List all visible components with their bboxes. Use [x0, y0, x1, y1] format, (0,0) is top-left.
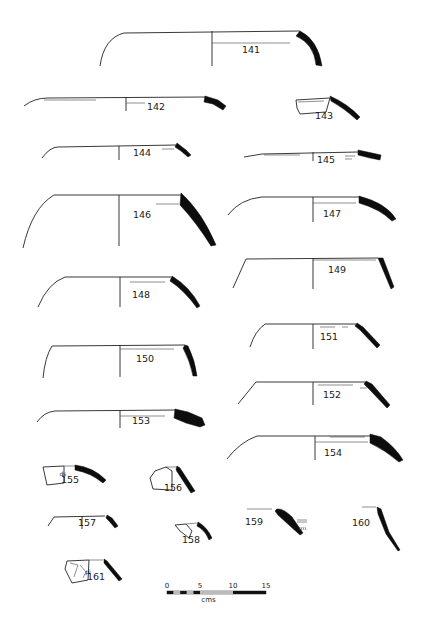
rim-section: [174, 409, 205, 427]
rim-section: [370, 434, 403, 462]
rim-section: [175, 143, 191, 157]
rim-profile-153: 153: [37, 409, 205, 428]
vessel-outline: [38, 277, 171, 307]
inner-line: [298, 101, 324, 102]
scale-segment: [180, 591, 187, 594]
fragment-155: 155ds: [43, 465, 106, 485]
scale-segment: [233, 591, 266, 594]
scale-segment: [187, 591, 194, 594]
vessel-outline: [227, 436, 370, 459]
catalogue-number: 146: [133, 209, 151, 220]
vessel-outline: [250, 324, 356, 347]
rim-section: [378, 258, 394, 289]
incised-decoration: [298, 519, 306, 530]
rim-section: [330, 96, 360, 120]
rim-profile-142: 142: [24, 96, 226, 112]
catalogue-number: 153: [132, 415, 150, 426]
fragment-159: 159: [245, 509, 306, 535]
scale-bar: 0 5 10 15 cms: [165, 582, 271, 604]
rim-section: [275, 509, 303, 535]
fragment-158: 158: [175, 522, 212, 545]
rim-section: [358, 150, 381, 160]
fragment-161: 161pi: [65, 559, 122, 583]
rim-section: [377, 507, 400, 551]
vessel-outline: [233, 258, 378, 288]
catalogue-number: 143: [315, 110, 333, 121]
rim-profile-148: 148: [38, 276, 200, 308]
rim-section: [296, 31, 322, 66]
rim-section: [180, 193, 216, 246]
vessel-outline: [42, 145, 176, 158]
fragment-156: 156: [150, 466, 195, 493]
fragment-157: 157: [48, 515, 118, 529]
rim-profile-149: 149: [233, 258, 394, 289]
inner-line: [315, 437, 368, 442]
scale-unit-label: cms: [201, 596, 216, 604]
annotation: pi: [85, 568, 91, 576]
rim-section: [170, 276, 200, 308]
vessel-outline: [23, 195, 181, 248]
rim-profile-150: 150: [43, 345, 197, 378]
catalogue-number: 154: [324, 447, 342, 458]
catalogue-number: 147: [323, 208, 341, 219]
catalogue-number: 159: [245, 516, 263, 527]
rim-profile-144: 144: [42, 143, 191, 160]
rim-section: [364, 381, 390, 408]
vessel-outline: [100, 31, 300, 66]
rim-profile-154: 154: [227, 434, 403, 462]
rim-profile-145: 145: [244, 150, 381, 165]
scale-tick-5: 5: [198, 582, 202, 590]
fragment-160: 160: [352, 507, 400, 551]
rim-section: [106, 515, 118, 528]
inner-line: [264, 155, 355, 159]
rim-section: [359, 196, 396, 221]
rim-section: [75, 465, 106, 483]
catalogue-number: 142: [147, 101, 165, 112]
rim-profile-152: 152: [238, 381, 390, 408]
catalogue-number: 158: [182, 534, 200, 545]
catalogue-number: 150: [136, 353, 154, 364]
rim-section: [183, 345, 197, 376]
rim-profile-141: 141: [100, 31, 322, 66]
scale-segment: [200, 591, 233, 594]
pottery-plate: 1411421431441451461471481491501511521531…: [0, 0, 423, 621]
scale-tick-15: 15: [262, 582, 271, 590]
fragment-outline: [48, 516, 105, 526]
sherd-fragments: 155ds156157158159160161pi: [43, 465, 400, 583]
vessel-outline: [244, 152, 358, 157]
inner-line: [318, 385, 367, 388]
catalogue-number: 152: [323, 389, 341, 400]
scale-bar-segments: [167, 591, 266, 594]
vessel-outline: [43, 345, 185, 378]
scale-tick-0: 0: [165, 582, 169, 590]
scale-segment: [193, 591, 200, 594]
inner-line: [44, 100, 145, 103]
rim-profiles: 1411421431441451461471481491501511521531…: [23, 31, 403, 462]
catalogue-number: 144: [133, 147, 151, 158]
rim-section: [104, 559, 122, 581]
rim-profile-147: 147: [228, 196, 396, 222]
rim-profile-146: 146: [23, 193, 216, 248]
catalogue-number: 148: [132, 289, 150, 300]
catalogue-number: 141: [242, 44, 260, 55]
scale-segment: [167, 591, 174, 594]
rim-profile-151: 151: [250, 323, 380, 349]
scale-segment: [174, 591, 181, 594]
scale-tick-10: 10: [229, 582, 238, 590]
catalogue-number: 157: [78, 517, 96, 528]
rim-section: [355, 323, 380, 348]
annotation: ds: [60, 470, 67, 477]
rim-section: [204, 96, 226, 110]
vessel-outline: [24, 97, 205, 106]
catalogue-number: 149: [328, 264, 346, 275]
catalogue-number: 156: [164, 482, 182, 493]
detail-line: [186, 523, 197, 524]
catalogue-number: 151: [320, 331, 338, 342]
catalogue-number: 145: [317, 154, 335, 165]
catalogue-number: 160: [352, 517, 370, 528]
rim-profile-143: 143: [296, 96, 360, 121]
